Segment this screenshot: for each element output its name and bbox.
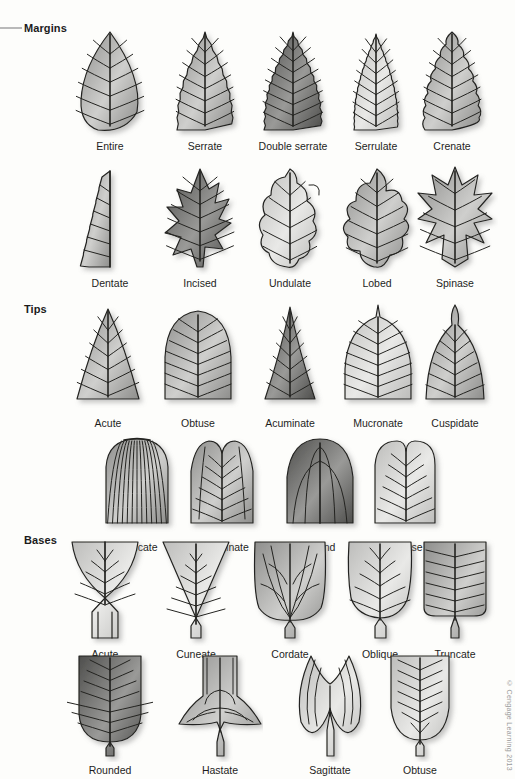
figure-sheet: Margins Entire Serrate: [0, 0, 515, 779]
margins-row-2: Dentate Incised Undulate: [0, 163, 515, 293]
tips-row-1: Acute Obtuse Acuminate: [0, 303, 515, 423]
acute-tip-leaf-illustration: [65, 303, 151, 415]
serrate-leaf-illustration: [162, 26, 248, 138]
undulate-leaf-illustration: [247, 163, 333, 275]
entire-leaf-illustration: [67, 26, 153, 138]
leaf-item-rounded-base: Rounded: [67, 650, 153, 776]
serrulate-leaf-illustration: [333, 26, 419, 138]
retuse-leaf-illustration: [363, 427, 449, 539]
leaf-item-obtuse-tip: Obtuse: [155, 303, 241, 429]
truncate-tip-leaf-illustration: [94, 427, 180, 539]
cordate-leaf-illustration: [247, 534, 333, 646]
leaf-label: Double serrate: [250, 140, 336, 152]
bases-row-2: Rounded Hastate Sagittate: [0, 650, 515, 765]
acute-base-leaf-illustration: [62, 534, 148, 646]
rounded-base-leaf-illustration: [67, 650, 153, 762]
crenate-leaf-illustration: [409, 26, 495, 138]
leaf-item-sagittate: Sagittate: [287, 650, 373, 776]
leaf-item-crenate: Crenate: [409, 26, 495, 152]
leaf-item-cordate: Cordate: [247, 534, 333, 660]
copyright-notice: © Cengage Learning 2013: [506, 680, 513, 771]
leaf-item-cuneate: Cuneate: [153, 534, 239, 660]
leaf-label: Undulate: [247, 277, 333, 289]
cuspidate-leaf-illustration: [412, 303, 498, 415]
leaf-label: Obtuse: [377, 764, 463, 776]
leaf-item-acuminate: Acuminate: [247, 303, 333, 429]
cuneate-leaf-illustration: [153, 534, 239, 646]
doubleserrate-leaf-illustration: [250, 26, 336, 138]
emarginate-leaf-illustration: [179, 427, 265, 539]
leaf-item-acute-tip: Acute: [65, 303, 151, 429]
leaf-item-doubleserrate: Double serrate: [250, 26, 336, 152]
leaf-item-dentate: Dentate: [67, 163, 153, 289]
dentate-leaf-illustration: [67, 163, 153, 275]
leaf-item-obtuse-base: Obtuse: [377, 650, 463, 776]
leaf-item-undulate: Undulate: [247, 163, 333, 289]
truncate-base-leaf-illustration: [412, 534, 498, 646]
bases-row-1: Acute Cuneate: [0, 534, 515, 644]
leaf-item-serrulate: Serrulate: [333, 26, 419, 152]
leaf-item-lobed: Lobed: [334, 163, 420, 289]
leaf-label: Spinase: [412, 277, 498, 289]
sagittate-leaf-illustration: [287, 650, 373, 762]
leaf-item-incised: Incised: [157, 163, 243, 289]
leaf-label: Hastate: [177, 764, 263, 776]
leaf-item-mucronate: Mucronate: [335, 303, 421, 429]
obtuse-base-leaf-illustration: [377, 650, 463, 762]
oblique-leaf-illustration: [337, 534, 423, 646]
incised-leaf-illustration: [157, 163, 243, 275]
leaf-item-oblique: Oblique: [337, 534, 423, 660]
leaf-item-acute-base: Acute: [62, 534, 148, 660]
acuminate-leaf-illustration: [247, 303, 333, 415]
leaf-label: Entire: [67, 140, 153, 152]
leaf-label: Lobed: [334, 277, 420, 289]
leaf-label: Dentate: [67, 277, 153, 289]
leaf-label: Serrate: [162, 140, 248, 152]
leaf-label: Sagittate: [287, 764, 373, 776]
leaf-label: Rounded: [67, 764, 153, 776]
leaf-item-hastate: Hastate: [177, 650, 263, 776]
hastate-leaf-illustration: [177, 650, 263, 762]
leaf-item-cuspidate: Cuspidate: [412, 303, 498, 429]
leaf-item-entire: Entire: [67, 26, 153, 152]
margins-row-1: Entire Serrate Double serrate: [0, 26, 515, 156]
lobed-leaf-illustration: [334, 163, 420, 275]
obtuse-tip-leaf-illustration: [155, 303, 241, 415]
mucronate-leaf-illustration: [335, 303, 421, 415]
tips-row-2: Truncate Emarginate Round: [0, 427, 515, 537]
leaf-item-spinase: Spinase: [412, 163, 498, 289]
leaf-item-truncate-base: Truncate: [412, 534, 498, 660]
leaf-label: Serrulate: [333, 140, 419, 152]
round-tip-leaf-illustration: [277, 427, 363, 539]
leaf-label: Incised: [157, 277, 243, 289]
leaf-item-serrate: Serrate: [162, 26, 248, 152]
spinase-leaf-illustration: [412, 163, 498, 275]
leaf-label: Crenate: [409, 140, 495, 152]
